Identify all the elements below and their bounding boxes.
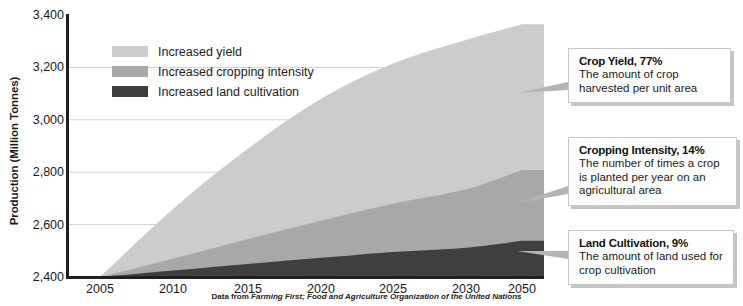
callout-body-line: The amount of crop [579,68,721,82]
callout-body-line: The number of times a crop [579,157,727,171]
callout-cropping-intensity[interactable]: Cropping Intensity, 14% The number of ti… [568,137,737,206]
callout-crop-yield[interactable]: Crop Yield, 77% The amount of crop harve… [568,48,731,103]
stacked-area-chart-figure: Production (Million Tonnes) 3,400 3,200 … [0,0,743,306]
callout-body-line: harvested per unit area [579,82,721,96]
callout-land-cultivation[interactable]: Land Cultivation, 9% The amount of land … [568,230,734,285]
callout-body-line: is planted per year on an [579,171,727,185]
pointer-crop-yield [517,82,568,93]
callout-body-line: The amount of land used for [579,250,724,264]
callout-title: Crop Yield, 77% [579,55,721,67]
callout-body: The number of times a crop is planted pe… [579,157,727,198]
callout-title: Cropping Intensity, 14% [579,144,727,156]
callout-body: The amount of land used for crop cultiva… [579,250,724,277]
source-note: Data from Farming First; Food and Agricu… [0,292,743,301]
pointer-land-cultivation [517,251,568,259]
callout-body: The amount of crop harvested per unit ar… [579,68,721,95]
pointer-cropping-intensity [517,186,568,203]
callout-body-line: crop cultivation [579,264,724,278]
source-note-emphasis: Farming First; Food and Agriculture Orga… [251,292,521,301]
source-note-prefix: Data from [212,292,252,301]
callout-title: Land Cultivation, 9% [579,237,724,249]
callout-body-line: agricultural area [579,184,727,198]
